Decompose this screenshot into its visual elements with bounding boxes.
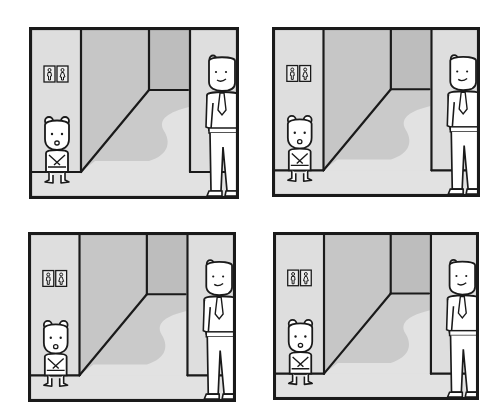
comic-panel-3	[28, 232, 236, 402]
figure-belt	[450, 331, 479, 336]
bear-body	[290, 352, 312, 373]
figure-eye	[225, 71, 227, 73]
figure-belt	[450, 127, 480, 132]
figure-belt	[206, 332, 236, 337]
comic-panel-4	[273, 232, 479, 400]
female-restroom-icon	[56, 271, 67, 287]
figure-tie	[458, 296, 466, 317]
panel-art	[28, 232, 236, 402]
female-restroom-icon	[57, 66, 68, 82]
hallway-back-wall	[391, 232, 430, 294]
bear-eye	[51, 133, 53, 135]
figure-eye	[465, 275, 467, 277]
figure-shoe	[448, 189, 463, 194]
comic-strip	[0, 0, 502, 420]
tall-bear-figure	[203, 260, 236, 399]
bear-body	[289, 149, 311, 171]
figure-head	[209, 57, 235, 91]
hallway-back-wall	[147, 232, 187, 294]
figure-shoe	[448, 392, 463, 397]
bear-eye	[304, 335, 306, 337]
figure-eye	[222, 275, 224, 277]
figure-eye	[212, 275, 214, 277]
bear-mouth	[55, 141, 59, 145]
male-restroom-icon	[43, 271, 54, 287]
figure-eye	[215, 71, 217, 73]
bear-eye	[294, 335, 296, 337]
bear-mouth	[298, 343, 302, 347]
figure-tie	[218, 93, 226, 115]
comic-panel-2	[272, 27, 480, 197]
male-restroom-icon	[288, 270, 299, 286]
figure-belt	[209, 128, 239, 133]
bear-body	[46, 150, 68, 172]
bear-mouth	[54, 345, 58, 349]
bear-mouth	[298, 140, 302, 144]
bear-eye	[50, 337, 52, 339]
hallway-back-wall	[149, 27, 189, 90]
figure-tie	[215, 297, 223, 319]
panel-art	[272, 27, 480, 197]
tall-bear-figure	[447, 55, 480, 194]
figure-head	[206, 262, 232, 295]
hallway-back-wall	[391, 27, 431, 89]
female-restroom-icon	[300, 66, 311, 82]
panel-art	[273, 232, 479, 400]
figure-eye	[455, 275, 457, 277]
tall-bear-figure	[447, 260, 479, 397]
figure-head	[450, 262, 476, 295]
bear-eye	[294, 132, 296, 134]
female-restroom-icon	[300, 270, 311, 286]
figure-eye	[456, 70, 458, 72]
male-restroom-icon	[44, 66, 55, 82]
comic-panel-1	[29, 27, 239, 199]
bear-eye	[303, 132, 305, 134]
tall-bear-figure	[206, 56, 239, 197]
panel-art	[29, 27, 239, 199]
bear-eye	[59, 337, 61, 339]
figure-head	[450, 57, 476, 90]
figure-shoe	[207, 191, 222, 196]
bear-eye	[61, 133, 63, 135]
figure-tie	[459, 92, 467, 114]
male-restroom-icon	[287, 66, 298, 82]
figure-eye	[466, 70, 468, 72]
bear-body	[45, 354, 67, 376]
figure-shoe	[204, 394, 219, 399]
